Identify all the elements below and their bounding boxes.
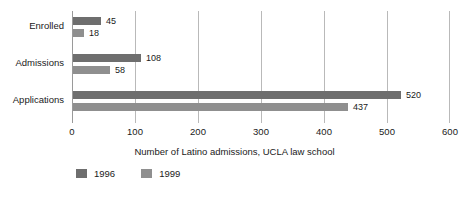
legend-item-1999[interactable]: 1999: [141, 169, 180, 179]
gridline-600: [449, 11, 450, 123]
bar-1999-admissions[interactable]: [73, 66, 110, 74]
category-label-admissions: Admissions: [15, 57, 64, 68]
tick-label-500: 500: [379, 126, 395, 137]
bar-1999-applications[interactable]: [73, 103, 348, 111]
chart-container: Enrolled Admissions Applications 45 18 1…: [0, 0, 469, 197]
bar-value-1999-admissions: 58: [115, 66, 125, 74]
legend: 1996 1999: [76, 169, 180, 179]
bar-1996-admissions[interactable]: [73, 54, 141, 62]
plot-area: 45 18 108 58 520 437: [72, 11, 450, 123]
tick-label-100: 100: [127, 126, 143, 137]
tick-label-600: 600: [442, 126, 458, 137]
bar-value-1996-enrolled: 45: [106, 17, 116, 25]
bar-1999-enrolled[interactable]: [73, 29, 84, 37]
tick-label-400: 400: [316, 126, 332, 137]
bar-value-1999-applications: 437: [353, 103, 368, 111]
bar-value-1996-applications: 520: [406, 91, 421, 99]
gridline-500: [387, 11, 388, 123]
category-label-enrolled: Enrolled: [29, 20, 64, 31]
legend-item-1996[interactable]: 1996: [76, 169, 115, 179]
tick-label-300: 300: [253, 126, 269, 137]
tick-label-0: 0: [69, 126, 74, 137]
tick-label-200: 200: [190, 126, 206, 137]
legend-label-1996: 1996: [94, 169, 115, 179]
bar-1996-applications[interactable]: [73, 91, 401, 99]
legend-swatch-1999: [141, 169, 152, 178]
legend-swatch-1996: [76, 169, 87, 178]
legend-label-1999: 1999: [159, 169, 180, 179]
bar-value-1999-enrolled: 18: [89, 29, 99, 37]
category-label-applications: Applications: [13, 94, 64, 105]
x-axis-title: Number of Latino admissions, UCLA law sc…: [0, 146, 469, 157]
bar-1996-enrolled[interactable]: [73, 17, 101, 25]
bar-value-1996-admissions: 108: [146, 54, 161, 62]
